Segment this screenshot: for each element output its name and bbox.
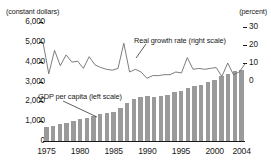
y2-axis-tick-mark (243, 45, 247, 46)
y2-axis-tick-label: 10 (249, 58, 258, 67)
chart-figure: (constant dollars) (percent) 01,0002,000… (0, 0, 271, 163)
y-axis-tick-mark (39, 101, 43, 102)
bar (179, 91, 183, 141)
y2-axis-tick-label: 20 (249, 40, 258, 49)
bar (138, 97, 142, 141)
y2-axis-tick-label: 30 (249, 22, 258, 31)
growth-rate-polyline (43, 42, 245, 78)
bar (51, 126, 55, 141)
x-axis-tick-label: 1985 (105, 146, 123, 156)
y-axis-tick-mark (39, 22, 43, 23)
bar (239, 70, 243, 141)
growth-rate-annotation-label: Real growth rate (right scale) (134, 36, 226, 45)
x-axis-tick-label: 1990 (138, 146, 156, 156)
bar (233, 71, 237, 141)
x-axis-baseline (43, 141, 245, 142)
bar (165, 95, 169, 141)
bar (172, 92, 176, 141)
bar (206, 82, 210, 141)
bar (159, 96, 163, 141)
bar (152, 97, 156, 141)
bar (91, 116, 95, 141)
growth-annotation-leader-line (136, 44, 146, 58)
bar (199, 85, 203, 141)
left-axis-unit-label: (constant dollars) (6, 7, 59, 16)
bar (71, 121, 75, 141)
bar (145, 96, 149, 141)
y2-axis-tick-label: 0 (249, 76, 253, 85)
bar (192, 86, 196, 141)
x-axis-tick-label: 2000 (206, 146, 224, 156)
x-axis-tick-label: 1995 (172, 146, 190, 156)
bar (44, 127, 48, 141)
bar (111, 112, 115, 141)
bar (105, 113, 109, 141)
y-axis-tick-mark (39, 42, 43, 43)
x-axis-tick-label: 2004 (232, 146, 250, 156)
gdp-annotation-leader-line (63, 101, 97, 117)
bar (118, 108, 122, 141)
x-axis-tick-label: 1980 (71, 146, 89, 156)
bar (98, 114, 102, 141)
bar (186, 88, 190, 141)
bar (85, 118, 89, 141)
bar (132, 99, 136, 141)
right-axis-unit-label: (percent) (239, 7, 267, 16)
gdp-per-capita-annotation-label: GDP per capita (left scale) (38, 92, 122, 101)
bar (125, 103, 129, 141)
y-axis-tick-mark (39, 62, 43, 63)
y-axis-tick-mark (39, 121, 43, 122)
x-axis-tick-label: 1975 (37, 146, 55, 156)
bar (226, 74, 230, 141)
bar (58, 124, 62, 141)
y2-axis-tick-mark (243, 27, 247, 28)
bar (219, 76, 223, 141)
bar (78, 119, 82, 141)
bar (212, 80, 216, 141)
y2-axis-tick-mark (243, 63, 247, 64)
y-axis-tick-mark (39, 82, 43, 83)
bar (64, 123, 68, 141)
